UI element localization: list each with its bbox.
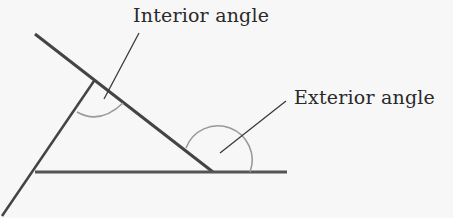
upper-side-line <box>35 34 213 172</box>
left-side-line <box>2 81 94 216</box>
interior-leader-line <box>104 33 139 99</box>
exterior-angle-arc <box>186 126 252 172</box>
interior-angle-label: Interior angle <box>133 4 269 26</box>
exterior-angle-label: Exterior angle <box>294 86 435 108</box>
interior-angle-arc <box>77 103 123 117</box>
exterior-leader-line <box>220 101 286 153</box>
triangle-diagram <box>0 0 453 218</box>
